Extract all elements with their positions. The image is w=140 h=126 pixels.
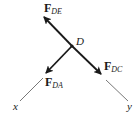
force-label-fdc: FDC [104,59,123,74]
y-axis-line [106,80,128,101]
axis-label-x: x [12,100,18,112]
axis-label-y: y [126,100,132,112]
force-arrow-fda [46,46,72,73]
force-arrow-fdc [72,46,101,74]
x-axis-line [20,78,43,101]
joint-label-d: D [75,35,84,47]
force-arrow-fde [44,17,72,46]
force-label-fda: FDA [45,75,63,90]
free-body-diagram: FDE D FDC FDA x y [0,0,140,126]
joint-point-d [70,44,73,47]
force-label-fde: FDE [44,1,62,16]
